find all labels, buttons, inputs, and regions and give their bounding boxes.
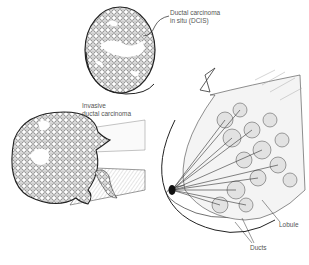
illustration-canvas [0, 0, 309, 265]
breast-cross-section [162, 68, 305, 243]
idc-label-line-2: ductal carcinoma [82, 110, 131, 118]
invasive-carcinoma-label: Invasive ductal carcinoma [82, 102, 131, 118]
ducts-label: Ducts [250, 244, 267, 252]
lobule-label: Lobule [279, 221, 299, 229]
dcis-cross-section [85, 7, 169, 94]
dcis-label-line-1: Ductal carcinoma [170, 9, 220, 17]
dcis-label-line-2: in situ (DCIS) [170, 17, 220, 25]
dcis-label: Ductal carcinoma in situ (DCIS) [170, 9, 220, 25]
idc-label-line-1: Invasive [82, 102, 131, 110]
invasive-carcinoma-section [12, 112, 145, 205]
